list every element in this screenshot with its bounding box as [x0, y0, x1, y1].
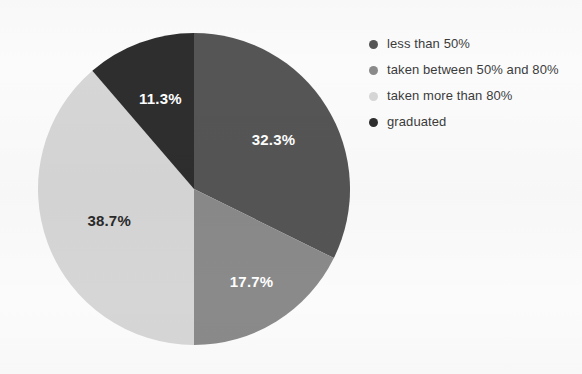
pie-slice-value-label: 11.3% [139, 90, 182, 107]
legend-item-label: less than 50% [387, 36, 470, 51]
pie-slice-value-label: 38.7% [87, 212, 131, 229]
legend-swatch-icon [369, 40, 378, 49]
legend-item[interactable]: graduated [369, 114, 575, 129]
pie-slice-group [38, 33, 350, 345]
legend-item[interactable]: taken more than 80% [369, 88, 575, 103]
legend-swatch-icon [369, 92, 378, 101]
legend-item[interactable]: taken between 50% and 80% [369, 62, 575, 77]
pie-slice-value-label: 32.3% [252, 131, 296, 148]
legend-item-label: taken between 50% and 80% [387, 62, 559, 77]
legend-swatch-icon [369, 66, 378, 75]
pie-chart-figure: 32.3%17.7%38.7%11.3% less than 50%taken … [0, 0, 582, 374]
legend-swatch-icon [369, 118, 378, 127]
legend-item-label: graduated [387, 114, 446, 129]
legend-item-label: taken more than 80% [387, 88, 512, 103]
pie-slice-value-label: 17.7% [230, 273, 274, 290]
chart-legend: less than 50%taken between 50% and 80%ta… [369, 36, 575, 129]
legend-item[interactable]: less than 50% [369, 36, 575, 51]
pie-svg: 32.3%17.7%38.7%11.3% [38, 33, 350, 345]
pie-chart-plot-area: 32.3%17.7%38.7%11.3% [38, 33, 350, 345]
